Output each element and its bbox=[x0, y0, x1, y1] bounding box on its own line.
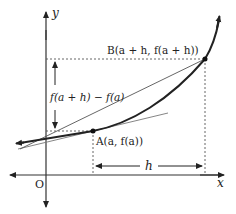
horizontal-difference-label: h bbox=[145, 159, 153, 173]
y-axis-label: y bbox=[51, 6, 59, 20]
point-a bbox=[91, 129, 96, 134]
vertical-difference-label: f(a + h) − f(a) bbox=[49, 91, 124, 103]
x-axis-label: x bbox=[217, 176, 224, 190]
curve-up-arrow bbox=[217, 16, 220, 28]
point-a-label: A(a, f(a)) bbox=[95, 135, 143, 147]
point-b bbox=[203, 57, 208, 62]
origin-label: O bbox=[35, 178, 44, 191]
point-b-label: B(a + h, f(a + h)) bbox=[107, 44, 199, 56]
curve-left-arrow bbox=[16, 143, 24, 144]
secant-diagram: y x O B(a + h, f(a + h)) A(a, f(a)) f(a … bbox=[0, 0, 236, 214]
